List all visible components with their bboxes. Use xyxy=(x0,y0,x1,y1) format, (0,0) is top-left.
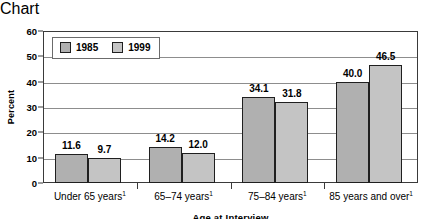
bar-value-label: 9.7 xyxy=(84,144,124,155)
bar-chart: Percent 0102030405060 11.69.714.212.034.… xyxy=(0,18,427,219)
x-category-label: 85 years and over1 xyxy=(324,191,418,202)
bar xyxy=(182,153,215,183)
x-tick-mark xyxy=(137,183,138,189)
y-tick-label: 20 xyxy=(5,127,37,138)
bar-value-label: 46.5 xyxy=(366,51,406,62)
y-tick-label: 40 xyxy=(5,76,37,87)
legend-item: 1985 xyxy=(60,42,98,53)
bar-value-label: 31.8 xyxy=(272,88,312,99)
bar xyxy=(88,158,121,183)
bar xyxy=(275,102,308,183)
legend-label: 1985 xyxy=(76,43,98,53)
y-tick-label: 60 xyxy=(5,26,37,37)
legend-swatch xyxy=(60,42,71,53)
bar xyxy=(336,82,369,183)
x-tick-mark xyxy=(324,183,325,189)
footnote-marker: 1 xyxy=(209,190,213,197)
x-category-label: 65–74 years1 xyxy=(137,191,231,202)
legend-item: 1999 xyxy=(112,42,150,53)
x-category-label: Under 65 years1 xyxy=(43,191,137,202)
y-tick-label: 50 xyxy=(5,51,37,62)
x-category-label: 75–84 years1 xyxy=(231,191,325,202)
legend-label: 1999 xyxy=(128,43,150,53)
footnote-marker: 1 xyxy=(303,190,307,197)
bar-value-label: 40.0 xyxy=(333,68,373,79)
bar xyxy=(55,154,88,183)
y-tick-label: 10 xyxy=(5,152,37,163)
bar xyxy=(242,97,275,183)
footnote-marker: 1 xyxy=(122,190,126,197)
y-tick-label: 0 xyxy=(5,178,37,189)
bar-value-label: 12.0 xyxy=(178,139,218,150)
bar xyxy=(369,65,402,183)
bar xyxy=(149,147,182,183)
x-tick-mark xyxy=(231,183,232,189)
y-tick-label: 30 xyxy=(5,102,37,113)
x-axis-title: Age at Interview xyxy=(43,212,418,219)
chart-legend: 19851999 xyxy=(52,37,160,59)
legend-swatch xyxy=(112,42,123,53)
footnote-marker: 1 xyxy=(409,190,413,197)
